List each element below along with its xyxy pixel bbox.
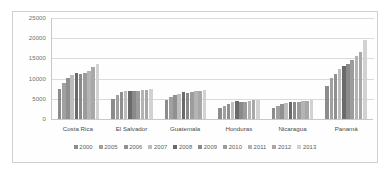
- bar[interactable]: [58, 89, 62, 119]
- legend-item[interactable]: 2010: [223, 144, 242, 150]
- bar[interactable]: [145, 90, 149, 119]
- bars-layer: [52, 18, 373, 119]
- bar[interactable]: [128, 91, 132, 119]
- legend-swatch-icon: [173, 145, 177, 149]
- bar[interactable]: [75, 73, 79, 119]
- bar[interactable]: [355, 56, 359, 119]
- bar[interactable]: [280, 104, 284, 119]
- bar[interactable]: [223, 106, 227, 119]
- legend-label: 2009: [204, 144, 217, 150]
- chart-legend: 2000200520062007200820092010201120122013: [13, 140, 377, 154]
- bar[interactable]: [293, 102, 297, 119]
- bar[interactable]: [231, 102, 235, 119]
- bar[interactable]: [243, 102, 247, 119]
- bar[interactable]: [169, 97, 173, 119]
- bar[interactable]: [79, 74, 83, 119]
- bar[interactable]: [116, 95, 120, 119]
- legend-item[interactable]: 2011: [248, 144, 266, 150]
- legend-swatch-icon: [248, 145, 252, 149]
- legend-label: 2010: [229, 144, 242, 150]
- legend-swatch-icon: [124, 145, 128, 149]
- bar[interactable]: [218, 108, 222, 119]
- bar[interactable]: [227, 104, 231, 119]
- bar[interactable]: [235, 101, 239, 119]
- y-axis-tick-label: 20000: [29, 35, 46, 41]
- legend-label: 2006: [129, 144, 142, 150]
- x-axis-label: Nicaragua: [266, 122, 320, 136]
- bar[interactable]: [276, 106, 280, 119]
- legend-item[interactable]: 2005: [99, 144, 118, 150]
- y-axis-tick-label: 5000: [32, 96, 46, 102]
- bar[interactable]: [136, 91, 140, 119]
- bar[interactable]: [342, 66, 346, 119]
- bar[interactable]: [203, 90, 207, 119]
- bar[interactable]: [284, 103, 288, 119]
- legend-item[interactable]: 2008: [173, 144, 192, 150]
- bar[interactable]: [132, 91, 136, 119]
- bar[interactable]: [350, 60, 354, 119]
- y-axis-tick-label: 15000: [29, 55, 46, 61]
- y-axis-tick-label: 10000: [29, 76, 46, 82]
- bar[interactable]: [310, 100, 314, 119]
- bar[interactable]: [87, 71, 91, 119]
- x-axis-category-labels: Costa RicaEl SalvadorGuatemalaHondurasNi…: [51, 122, 373, 136]
- legend-swatch-icon: [297, 145, 301, 149]
- legend-label: 2011: [254, 144, 267, 150]
- bar[interactable]: [124, 91, 128, 119]
- bar[interactable]: [256, 100, 260, 119]
- bar[interactable]: [66, 78, 70, 119]
- bar[interactable]: [186, 93, 190, 119]
- legend-item[interactable]: 2013: [297, 144, 316, 150]
- bar[interactable]: [289, 102, 293, 119]
- bar[interactable]: [301, 101, 305, 119]
- bar[interactable]: [182, 92, 186, 119]
- bar[interactable]: [239, 102, 243, 119]
- bar[interactable]: [120, 92, 124, 119]
- legend-item[interactable]: 2009: [198, 144, 217, 150]
- bar[interactable]: [177, 94, 181, 119]
- bar[interactable]: [334, 74, 338, 119]
- plot-wrapper: 0500010000150002000025000 Costa RicaEl S…: [13, 12, 379, 128]
- bar[interactable]: [70, 75, 74, 119]
- legend-item[interactable]: 2000: [74, 144, 93, 150]
- bar[interactable]: [62, 83, 66, 119]
- bar[interactable]: [111, 99, 115, 119]
- legend-item[interactable]: 2007: [148, 144, 167, 150]
- legend-item[interactable]: 2012: [272, 144, 291, 150]
- bar[interactable]: [141, 90, 145, 119]
- bar[interactable]: [173, 95, 177, 119]
- y-axis-tick-label: 0: [43, 116, 46, 122]
- legend-swatch-icon: [223, 145, 227, 149]
- bar[interactable]: [252, 100, 256, 119]
- bar[interactable]: [305, 101, 309, 119]
- legend-label: 2008: [179, 144, 192, 150]
- bar[interactable]: [330, 78, 334, 119]
- bar[interactable]: [149, 89, 153, 119]
- bar[interactable]: [363, 40, 367, 119]
- bar-group: [266, 18, 320, 119]
- legend-swatch-icon: [74, 145, 78, 149]
- bar[interactable]: [297, 102, 301, 119]
- bar[interactable]: [165, 100, 169, 119]
- y-axis-tick-label: 25000: [29, 15, 46, 21]
- bar[interactable]: [346, 64, 350, 119]
- bar-group: [320, 18, 374, 119]
- legend-swatch-icon: [272, 145, 276, 149]
- bar[interactable]: [359, 52, 363, 119]
- bar[interactable]: [91, 67, 95, 119]
- bar[interactable]: [325, 86, 329, 119]
- bar[interactable]: [198, 91, 202, 119]
- bar[interactable]: [96, 64, 100, 119]
- x-axis-label: Panamá: [319, 122, 373, 136]
- legend-item[interactable]: 2006: [124, 144, 143, 150]
- bar[interactable]: [272, 108, 276, 119]
- legend-label: 2012: [278, 144, 291, 150]
- bar-group: [159, 18, 213, 119]
- chart-frame: 0500010000150002000025000 Costa RicaEl S…: [12, 11, 378, 163]
- bar[interactable]: [338, 69, 342, 119]
- bar[interactable]: [248, 101, 252, 119]
- bar[interactable]: [83, 73, 87, 119]
- bar[interactable]: [190, 92, 194, 119]
- bar[interactable]: [194, 91, 198, 119]
- y-axis: 0500010000150002000025000: [13, 12, 49, 122]
